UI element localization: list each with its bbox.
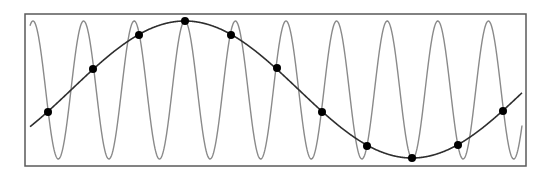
sample-point	[318, 108, 326, 116]
sample-point	[408, 154, 416, 162]
aliased-low-frequency-sine-wave	[30, 21, 522, 158]
high-frequency-sine-wave	[30, 21, 522, 159]
diagram-canvas	[0, 0, 555, 175]
sample-point	[181, 17, 189, 25]
sample-point	[227, 31, 235, 39]
aliasing-diagram	[0, 0, 555, 175]
sample-point	[135, 31, 143, 39]
sample-point	[89, 65, 97, 73]
sample-point	[273, 64, 281, 72]
sample-points-group	[44, 17, 507, 162]
sample-point	[454, 141, 462, 149]
sample-point	[44, 108, 52, 116]
sample-point	[363, 142, 371, 150]
sample-point	[499, 107, 507, 115]
